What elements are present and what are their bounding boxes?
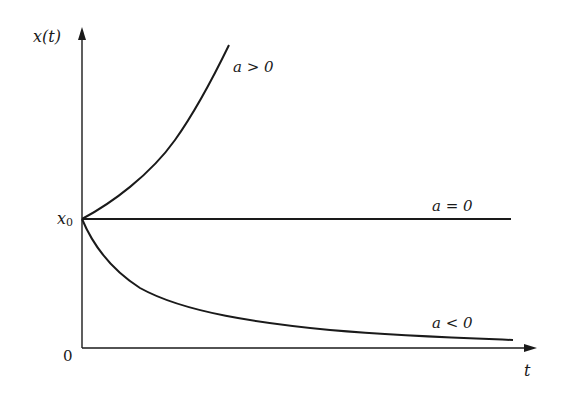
x0-tick-label: x0 (57, 209, 73, 229)
solution-curves-figure: x(t) t 0 x0 a > 0 a = 0 a < 0 (0, 0, 563, 394)
y-axis-label: x(t) (33, 27, 61, 46)
x0-subscript: 0 (66, 216, 73, 229)
x-axis-arrow-icon (524, 344, 537, 352)
origin-label: 0 (63, 347, 73, 365)
plot-canvas: x(t) t 0 x0 a > 0 a = 0 a < 0 (0, 0, 563, 394)
curve-a-positive (82, 45, 229, 219)
label-a-negative: a < 0 (432, 314, 473, 332)
label-a-zero: a = 0 (432, 197, 473, 215)
y-axis-arrow-icon (78, 27, 86, 40)
label-a-positive: a > 0 (233, 58, 274, 76)
x-axis-label: t (524, 361, 531, 380)
x0-main: x (57, 209, 66, 228)
